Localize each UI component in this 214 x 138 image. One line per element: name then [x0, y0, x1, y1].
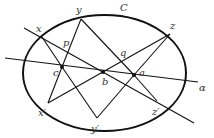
point-b-label: b [102, 76, 108, 87]
point-c-label: c [53, 67, 59, 78]
point-z2-label: z′ [151, 106, 160, 117]
conic-diagram: xyzpqcbax′y′z′ C α [0, 0, 214, 138]
point-y2-label: y′ [90, 123, 100, 134]
point-q-label: q [120, 47, 126, 58]
point-b-marker [101, 70, 105, 74]
point-a-label: a [139, 67, 145, 78]
point-c-marker [60, 65, 64, 69]
point-x-label: x [36, 23, 42, 34]
point-z-label: z [169, 20, 176, 31]
curve-label: C [120, 2, 128, 13]
axis-alpha-label: α [199, 82, 206, 93]
point-a-marker [132, 73, 136, 77]
point-x2-label: x′ [38, 107, 47, 118]
line-a-z2 [134, 75, 157, 101]
point-labels: xyzpqcbax′y′z′ [36, 4, 176, 134]
line-x-z2 [24, 28, 194, 123]
point-y-label: y [75, 4, 82, 15]
point-p-label: p [63, 37, 70, 48]
